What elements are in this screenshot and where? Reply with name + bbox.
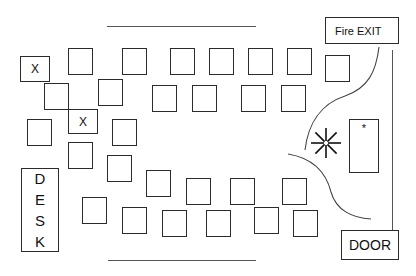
- door-label: DOOR: [349, 237, 391, 253]
- seat: [241, 85, 266, 112]
- seat: [293, 210, 318, 237]
- starburst-ray: [315, 132, 324, 141]
- door-box: DOOR: [341, 230, 399, 260]
- seat: [98, 79, 123, 106]
- seat: [44, 83, 69, 110]
- seat: [192, 85, 217, 112]
- seat: [68, 48, 93, 75]
- seat: [122, 207, 147, 234]
- marked-seat-label: X: [79, 115, 87, 129]
- starburst-ray: [327, 132, 336, 141]
- seat: [281, 85, 306, 112]
- seat: [152, 85, 177, 112]
- fire-exit-label: Fire EXIT: [335, 25, 381, 37]
- marked-seat: X: [68, 109, 98, 134]
- desk-letter-e: E: [35, 191, 45, 208]
- seat: [170, 48, 195, 75]
- seat: [230, 178, 255, 205]
- seat: [209, 48, 234, 75]
- desk-box: D E S K: [21, 168, 59, 252]
- seat: [107, 155, 132, 182]
- seat: [186, 178, 211, 205]
- desk-letter-k: K: [35, 233, 45, 250]
- seat: [325, 55, 350, 82]
- starburst-ray: [315, 144, 324, 153]
- seat: [248, 48, 273, 75]
- starburst-icon: [311, 128, 341, 158]
- seat: [282, 178, 307, 205]
- seat: [287, 48, 312, 75]
- seat: [112, 119, 137, 146]
- desk-letter-s: S: [35, 212, 45, 229]
- marked-seat-label: X: [31, 62, 39, 76]
- asterisk-marker: *: [350, 123, 378, 134]
- marked-seat: X: [20, 56, 50, 82]
- seat: [206, 210, 231, 237]
- seat: [146, 170, 171, 197]
- fire-exit-box: Fire EXIT: [325, 17, 399, 44]
- classroom-layout-diagram: Fire EXIT DOOR D E S K * X X: [0, 0, 416, 276]
- top-wall-line: [107, 26, 256, 27]
- seat: [27, 119, 52, 146]
- side-table: *: [349, 119, 379, 173]
- desk-letter-d: D: [35, 170, 46, 187]
- seat: [82, 197, 107, 224]
- seat: [68, 142, 93, 169]
- bottom-wall-line: [108, 260, 256, 261]
- seat: [162, 210, 187, 237]
- starburst-ray: [327, 144, 336, 153]
- seat: [122, 48, 147, 75]
- right-wall-line: [392, 50, 393, 239]
- seat: [254, 207, 279, 234]
